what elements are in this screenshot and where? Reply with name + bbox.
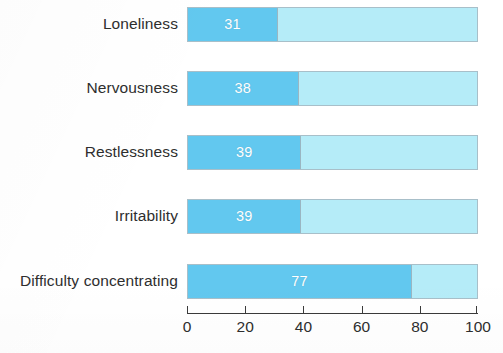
x-axis-line <box>187 313 478 314</box>
bar-value-label: 39 <box>236 208 253 224</box>
chart-row: Loneliness 31 <box>0 6 503 42</box>
bar-chart: Loneliness 31 Nervousness 38 Restlessnes… <box>0 0 503 353</box>
bar-value-label: 38 <box>234 80 251 96</box>
bar-fill: 38 <box>188 72 299 105</box>
category-label-difficulty-concentrating: Difficulty concentrating <box>0 272 187 290</box>
bar-fill: 39 <box>188 136 301 169</box>
paper-texture-overlay <box>0 0 503 353</box>
x-axis-tick-label: 100 <box>465 318 491 336</box>
x-axis-tick-label: 80 <box>411 318 428 336</box>
chart-row: Irritability 39 <box>0 198 503 234</box>
x-axis-tick <box>476 306 477 314</box>
bar-fill: 31 <box>188 8 278 41</box>
x-axis-tick <box>420 306 421 314</box>
category-label-loneliness: Loneliness <box>0 15 187 33</box>
x-axis-tick <box>245 306 246 314</box>
x-axis-tick-label: 60 <box>353 318 370 336</box>
category-label-restlessness: Restlessness <box>0 143 187 161</box>
chart-row: Restlessness 39 <box>0 134 503 170</box>
x-axis: 020406080100 <box>187 306 478 352</box>
x-axis-tick-label: 40 <box>295 318 312 336</box>
x-axis-tick-label: 20 <box>237 318 254 336</box>
chart-row: Nervousness 38 <box>0 70 503 106</box>
category-label-irritability: Irritability <box>0 207 187 225</box>
bar-track: 39 <box>187 199 478 234</box>
bar-value-label: 31 <box>224 16 241 32</box>
x-axis-tick <box>187 306 188 314</box>
bar-track: 39 <box>187 135 478 170</box>
bar-track: 38 <box>187 71 478 106</box>
category-label-nervousness: Nervousness <box>0 79 187 97</box>
bar-value-label: 77 <box>291 273 308 289</box>
x-axis-tick <box>303 306 304 314</box>
bar-track: 77 <box>187 264 478 299</box>
bar-fill: 39 <box>188 200 301 233</box>
bar-fill: 77 <box>188 265 412 298</box>
bar-track: 31 <box>187 7 478 42</box>
bar-value-label: 39 <box>236 144 253 160</box>
chart-row: Difficulty concentrating 77 <box>0 263 503 299</box>
x-axis-tick <box>362 306 363 314</box>
x-axis-tick-label: 0 <box>183 318 192 336</box>
